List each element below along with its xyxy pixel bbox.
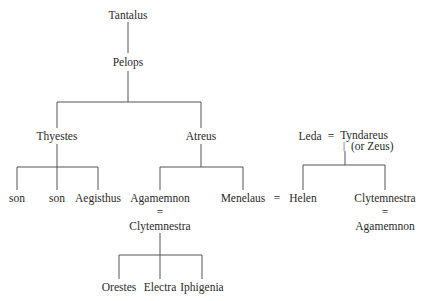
node-pelops: Pelops: [113, 56, 144, 68]
node-son-2: son: [49, 192, 65, 204]
node-orestes: Orestes: [102, 281, 137, 293]
marriage-symbol: =: [274, 192, 281, 204]
node-iphigenia: Iphigenia: [180, 281, 223, 293]
node-electra: Electra: [144, 281, 177, 293]
node-menelaus: Menelaus: [221, 192, 266, 204]
node-tyndareus-note: (or Zeus): [351, 140, 393, 152]
node-clytemnestra: Clytemnestra: [354, 192, 415, 204]
node-agamemnon-spouse: Clytemnestra: [129, 220, 190, 232]
node-agamemnon: Agamemnon: [130, 192, 189, 204]
node-son-1: son: [9, 192, 25, 204]
marriage-symbol: =: [328, 130, 335, 142]
node-helen: Helen: [289, 192, 316, 204]
marriage-symbol: =: [382, 206, 389, 218]
node-atreus: Atreus: [186, 130, 217, 142]
node-thyestes: Thyestes: [37, 130, 78, 142]
marriage-symbol: =: [157, 206, 164, 218]
node-tantalus: Tantalus: [109, 9, 148, 21]
pipe-symbol: |: [343, 140, 345, 152]
node-clytemnestra-spouse: Agamemnon: [355, 220, 414, 232]
node-leda: Leda: [299, 130, 322, 142]
node-aegisthus: Aegisthus: [75, 192, 121, 204]
